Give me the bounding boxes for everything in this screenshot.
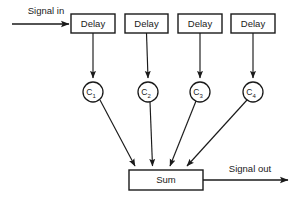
delay-block-4[interactable]: Delay bbox=[231, 14, 275, 33]
sum-wire-1 bbox=[100, 100, 135, 166]
sum-block-label: Sum bbox=[156, 174, 176, 185]
delay-block-4-label: Delay bbox=[241, 18, 266, 29]
signal-in-label: Signal in bbox=[28, 5, 64, 16]
delay-block-3[interactable]: Delay bbox=[178, 14, 222, 33]
delay-block-3-label: Delay bbox=[188, 18, 213, 29]
signal-out-label: Signal out bbox=[229, 163, 272, 174]
coefficient-node-4[interactable]: C4 bbox=[243, 82, 263, 102]
coefficient-node-2[interactable]: C2 bbox=[138, 82, 158, 102]
sum-wire-3 bbox=[170, 101, 196, 166]
delay-block-2-label: Delay bbox=[134, 18, 159, 29]
diagram-canvas: Signal in Delay Delay Delay Delay bbox=[0, 0, 297, 204]
sum-wire-4 bbox=[187, 100, 247, 166]
coefficient-node-1[interactable]: C1 bbox=[83, 82, 103, 102]
coefficient-node-3[interactable]: C3 bbox=[190, 82, 210, 102]
signal-flow-diagram: Signal in Delay Delay Delay Delay bbox=[0, 0, 297, 204]
delay-block-2[interactable]: Delay bbox=[125, 14, 168, 33]
signal-out-group: Signal out bbox=[203, 163, 288, 180]
delay-block-1-label: Delay bbox=[81, 18, 106, 29]
delay-block-1[interactable]: Delay bbox=[71, 14, 115, 33]
sum-block[interactable]: Sum bbox=[129, 170, 203, 190]
signal-in-group: Signal in bbox=[12, 5, 69, 24]
sum-wire-2 bbox=[150, 102, 153, 166]
tap-wire-2 bbox=[147, 33, 149, 78]
